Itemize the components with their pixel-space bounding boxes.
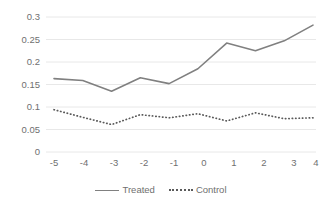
x-tick-label: -5 <box>43 158 65 168</box>
x-tick-label: 1 <box>223 158 245 168</box>
x-tick-label: 4 <box>305 158 322 168</box>
line-chart: 0.3 0.25 0.2 0.15 0.1 0.05 0 -5 -4 -3 - <box>0 0 322 203</box>
plot-area <box>0 0 322 203</box>
x-tick-label: 0 <box>193 158 215 168</box>
legend-item-control[interactable]: Control <box>169 185 227 195</box>
x-tick-label: 3 <box>283 158 305 168</box>
legend-item-treated[interactable]: Treated <box>95 185 154 195</box>
chart-legend: Treated Control <box>0 182 322 198</box>
series-line-treated <box>54 25 313 91</box>
x-tick-label: -3 <box>103 158 125 168</box>
legend-dotted-line-icon <box>169 189 193 191</box>
x-tick-label: -1 <box>163 158 185 168</box>
x-tick-label: -4 <box>73 158 95 168</box>
x-tick-label: -2 <box>133 158 155 168</box>
series-line-control <box>54 110 313 125</box>
legend-label: Treated <box>122 185 154 195</box>
x-tick-label: 2 <box>253 158 275 168</box>
legend-label: Control <box>196 185 227 195</box>
legend-solid-line-icon <box>95 190 119 191</box>
gridlines <box>46 17 316 152</box>
